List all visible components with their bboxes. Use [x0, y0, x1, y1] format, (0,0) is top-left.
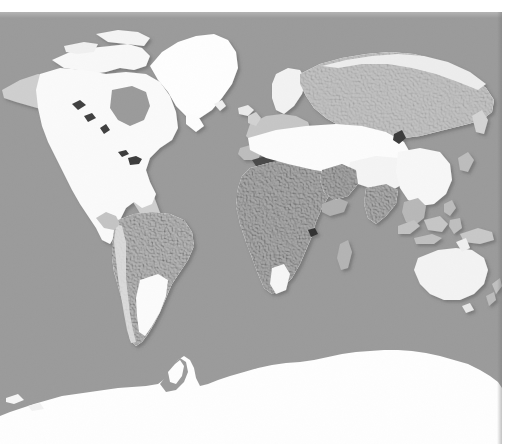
page-top-margin — [0, 0, 517, 12]
page-right-margin — [502, 0, 517, 444]
world-map-svg — [0, 12, 502, 444]
world-map-image[interactable] — [0, 12, 502, 444]
map-viewport — [0, 0, 517, 444]
map-grain-overlay — [0, 12, 502, 444]
